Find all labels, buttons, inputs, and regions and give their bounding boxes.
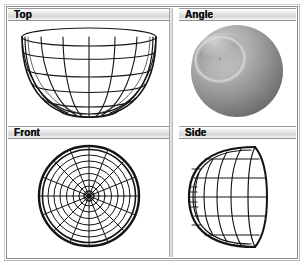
- viewport-top-titlebar[interactable]: Top: [8, 8, 171, 21]
- viewport-front-canvas[interactable]: [8, 139, 171, 257]
- viewport-top-label: Top: [14, 8, 32, 21]
- viewport-angle[interactable]: Angle: [179, 8, 296, 126]
- viewport-vertical-divider[interactable]: [169, 8, 173, 257]
- viewport-side-label: Side: [185, 126, 207, 139]
- viewport-front[interactable]: Front: [8, 126, 171, 257]
- viewport-angle-label: Angle: [185, 8, 213, 21]
- viewport-angle-titlebar[interactable]: Angle: [179, 8, 296, 21]
- viewport-side[interactable]: Side: [179, 126, 296, 257]
- viewport-front-titlebar[interactable]: Front: [8, 126, 171, 139]
- shaded-bowl-angle: [179, 21, 296, 126]
- wireframe-bowl-front: [8, 139, 171, 257]
- viewport-top-canvas[interactable]: [8, 21, 171, 126]
- wireframe-bowl-side: [179, 139, 296, 257]
- viewport-side-titlebar[interactable]: Side: [179, 126, 296, 139]
- viewport-angle-canvas[interactable]: [179, 21, 296, 126]
- viewport-side-canvas[interactable]: [179, 139, 296, 257]
- viewport-top[interactable]: Top: [8, 8, 171, 126]
- viewport-grid: Top: [8, 8, 296, 257]
- viewport-grid-window: Top: [0, 0, 304, 265]
- wireframe-bowl-top: [8, 21, 171, 126]
- viewport-front-label: Front: [14, 126, 40, 139]
